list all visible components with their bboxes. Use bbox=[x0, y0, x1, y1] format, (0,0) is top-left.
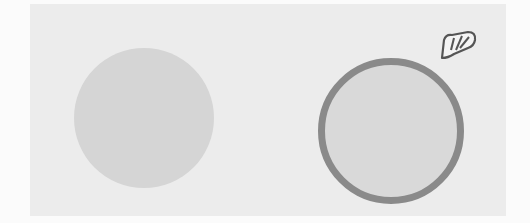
bleed-through-text bbox=[40, 6, 490, 36]
hand-cursor-icon bbox=[438, 28, 478, 64]
selected-circle[interactable] bbox=[318, 58, 464, 204]
plain-circle[interactable] bbox=[74, 48, 214, 188]
